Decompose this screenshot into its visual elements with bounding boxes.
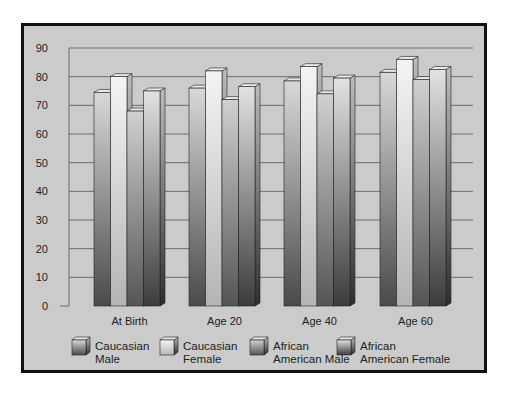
y-tick-label: 90 bbox=[36, 42, 48, 54]
bar bbox=[334, 75, 356, 306]
legend-label: Male bbox=[95, 353, 120, 365]
x-category-label: Age 40 bbox=[302, 315, 337, 327]
y-tick-label: 60 bbox=[36, 128, 48, 140]
y-tick-label: 20 bbox=[36, 243, 48, 255]
bar bbox=[239, 84, 261, 306]
legend-item: AfricanAmerican Female bbox=[337, 337, 450, 365]
bars bbox=[94, 56, 451, 306]
legend-label: African bbox=[273, 340, 309, 352]
legend: CaucasianMaleCaucasianFemaleAfricanAmeri… bbox=[72, 337, 450, 365]
x-category-label: Age 20 bbox=[207, 315, 242, 327]
legend-label: Female bbox=[183, 353, 221, 365]
legend-label: American Female bbox=[360, 353, 450, 365]
legend-label: Caucasian bbox=[95, 340, 149, 352]
y-tick-label: 50 bbox=[36, 157, 48, 169]
legend-item: AfricanAmerican Male bbox=[250, 337, 350, 365]
bar bbox=[144, 88, 166, 306]
legend-label: Caucasian bbox=[183, 340, 237, 352]
legend-label: African bbox=[360, 340, 396, 352]
y-tick-label: 40 bbox=[36, 185, 48, 197]
x-axis: At BirthAge 20Age 40Age 60 bbox=[111, 315, 432, 327]
legend-item: CaucasianMale bbox=[72, 337, 149, 365]
y-tick-label: 10 bbox=[36, 271, 48, 283]
y-tick-label: 0 bbox=[42, 300, 48, 312]
y-tick-label: 80 bbox=[36, 71, 48, 83]
y-tick-label: 30 bbox=[36, 214, 48, 226]
bar-chart: 0102030405060708090 At BirthAge 20Age 40… bbox=[0, 0, 506, 393]
legend-item: CaucasianFemale bbox=[160, 337, 237, 365]
bar bbox=[430, 67, 452, 307]
x-category-label: Age 60 bbox=[398, 315, 433, 327]
y-tick-label: 70 bbox=[36, 99, 48, 111]
y-axis: 0102030405060708090 bbox=[36, 42, 69, 312]
x-category-label: At Birth bbox=[111, 315, 147, 327]
